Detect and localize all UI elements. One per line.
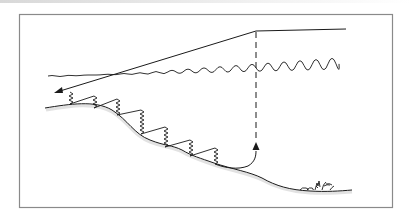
diagram-frame bbox=[20, 15, 393, 208]
acoustic-path-diagram bbox=[0, 0, 410, 221]
